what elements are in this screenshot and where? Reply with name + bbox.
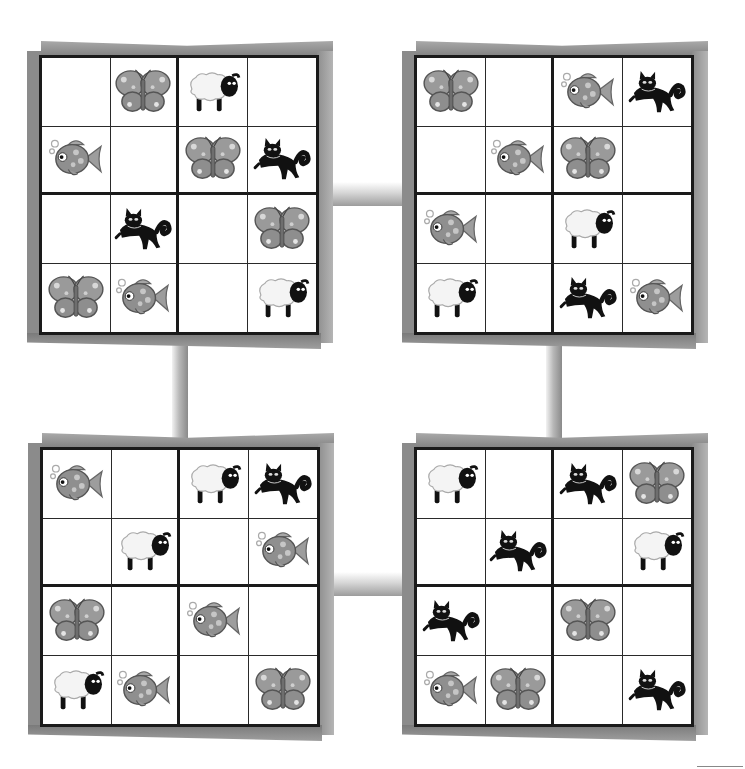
cell-fish [417,195,486,264]
fish-icon [422,205,480,253]
frame-shadow [317,51,333,343]
sheep-icon [185,460,243,508]
cell-fish [249,519,318,588]
cell-empty[interactable] [417,127,486,196]
butterfly-icon [559,135,617,183]
butterfly-icon [47,274,105,322]
cell-sheep [554,195,623,264]
cell-fish [43,450,112,519]
cell-empty[interactable] [417,519,486,588]
frame-shadow [402,725,696,741]
cell-butterfly [554,587,623,656]
butterfly-icon [48,597,106,645]
cell-empty[interactable] [486,58,555,127]
cell-empty[interactable] [248,58,317,127]
cell-butterfly [417,58,486,127]
cell-empty[interactable] [554,519,623,588]
fish-icon [185,597,243,645]
cat-icon [628,68,686,116]
puzzle-bottom-left [40,447,320,727]
cell-cat [554,264,623,333]
sudoku-grid [414,447,694,727]
sudoku-grid [414,55,694,335]
cell-butterfly [554,127,623,196]
cell-cat [249,450,318,519]
butterfly-icon [254,666,312,714]
cell-fish [111,264,180,333]
cell-butterfly [486,656,555,725]
cell-empty[interactable] [180,656,249,725]
cell-empty[interactable] [112,450,181,519]
cell-empty[interactable] [486,264,555,333]
cell-cat [554,450,623,519]
fish-icon [48,460,106,508]
cell-sheep [248,264,317,333]
cell-sheep [179,58,248,127]
cell-empty[interactable] [623,127,692,196]
cell-empty[interactable] [179,264,248,333]
connector-left [172,338,188,442]
sheep-icon [628,527,686,575]
cell-empty[interactable] [111,127,180,196]
cell-fish [486,127,555,196]
cell-sheep [623,519,692,588]
cell-empty[interactable] [180,519,249,588]
butterfly-icon [422,68,480,116]
cell-butterfly [42,264,111,333]
butterfly-icon [114,68,172,116]
fish-icon [115,666,173,714]
cell-empty[interactable] [179,195,248,264]
cell-fish [112,656,181,725]
cell-butterfly [249,656,318,725]
butterfly-icon [253,205,311,253]
cell-empty[interactable] [554,656,623,725]
sheep-icon [253,274,311,322]
fish-icon [47,135,105,183]
sudoku-grid [40,447,320,727]
cat-icon [628,666,686,714]
cell-empty[interactable] [623,195,692,264]
cat-icon [254,460,312,508]
cell-sheep [417,450,486,519]
cell-empty[interactable] [42,58,111,127]
butterfly-icon [559,597,617,645]
cell-butterfly [179,127,248,196]
cat-icon [253,135,311,183]
butterfly-icon [184,135,242,183]
cell-cat [623,656,692,725]
cat-icon [489,527,547,575]
sheep-icon [422,460,480,508]
cell-empty[interactable] [249,587,318,656]
cell-sheep [417,264,486,333]
sheep-icon [559,205,617,253]
cat-icon [559,460,617,508]
cat-icon [114,205,172,253]
cell-empty[interactable] [623,587,692,656]
cell-fish [623,264,692,333]
cell-sheep [112,519,181,588]
fish-icon [114,274,172,322]
sheep-icon [48,666,106,714]
fish-icon [628,274,686,322]
cell-cat [417,587,486,656]
cell-butterfly [623,450,692,519]
frame-shadow [692,51,708,343]
cell-empty[interactable] [486,450,555,519]
cell-sheep [180,450,249,519]
cell-butterfly [248,195,317,264]
cell-fish [180,587,249,656]
puzzle-bottom-right [414,447,694,727]
fish-icon [422,666,480,714]
cell-empty[interactable] [42,195,111,264]
cell-empty[interactable] [486,587,555,656]
fish-icon [489,135,547,183]
cat-icon [559,274,617,322]
cell-cat [486,519,555,588]
sheep-icon [184,68,242,116]
cell-fish [554,58,623,127]
cell-cat [111,195,180,264]
cell-empty[interactable] [112,587,181,656]
cell-empty[interactable] [43,519,112,588]
cell-cat [248,127,317,196]
cell-empty[interactable] [486,195,555,264]
